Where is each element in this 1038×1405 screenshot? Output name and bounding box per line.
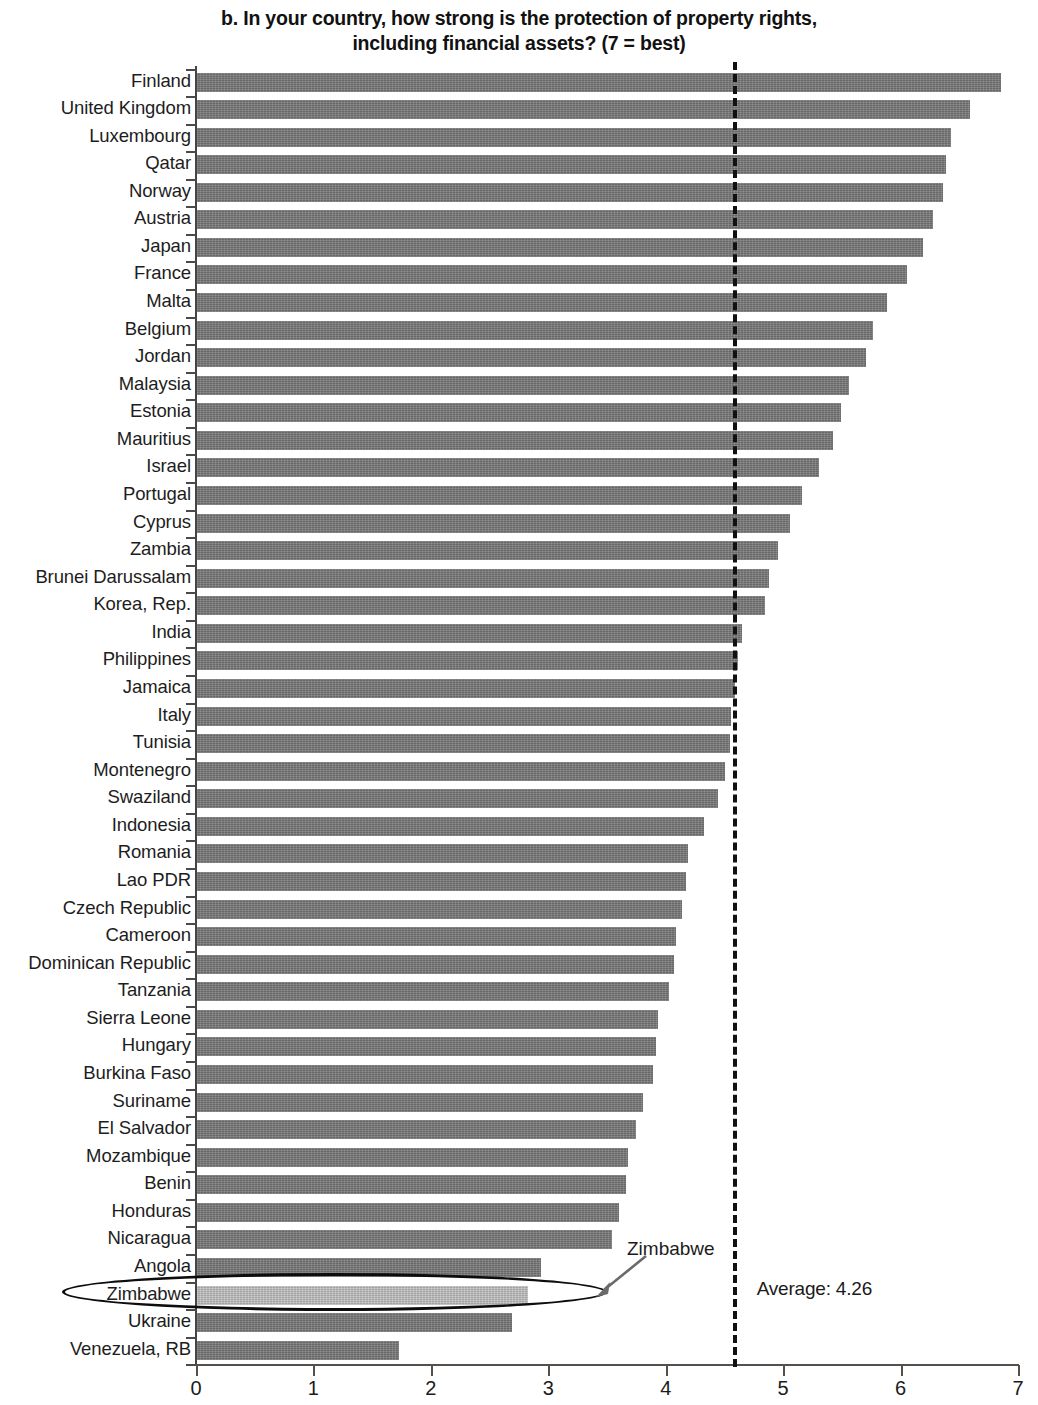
bar-row: Zambia	[0, 538, 1038, 566]
bar-row: Austria	[0, 207, 1038, 235]
bar	[197, 734, 730, 753]
bar	[197, 514, 790, 533]
bar-row: Tanzania	[0, 979, 1038, 1007]
bar-row: El Salvador	[0, 1117, 1038, 1145]
average-label: Average: 4.26	[757, 1278, 872, 1300]
bar-row: Estonia	[0, 400, 1038, 428]
category-label: Philippines	[0, 648, 191, 670]
bar	[197, 927, 676, 946]
bar	[197, 596, 765, 615]
bar	[197, 707, 731, 726]
bar	[197, 73, 1001, 92]
bar-row: Montenegro	[0, 759, 1038, 787]
category-label: Austria	[0, 207, 191, 229]
bar-row: Benin	[0, 1172, 1038, 1200]
bar	[197, 1313, 512, 1332]
bar-row: Israel	[0, 455, 1038, 483]
bar-row: Czech Republic	[0, 897, 1038, 925]
bar-row: Belgium	[0, 318, 1038, 346]
bar-row: Malaysia	[0, 373, 1038, 401]
category-label: Estonia	[0, 400, 191, 422]
average-reference-line	[733, 62, 737, 1367]
bar-row: Cameroon	[0, 924, 1038, 952]
bar	[197, 458, 819, 477]
x-axis-tick	[431, 1365, 433, 1376]
bar	[197, 844, 688, 863]
category-label: Indonesia	[0, 814, 191, 836]
bar-row: India	[0, 621, 1038, 649]
x-axis-tick	[901, 1365, 903, 1376]
bar-row: Suriname	[0, 1090, 1038, 1118]
bar-row: Philippines	[0, 648, 1038, 676]
category-label: Malaysia	[0, 373, 191, 395]
bar-row: Jamaica	[0, 676, 1038, 704]
x-axis-tick-label: 6	[881, 1377, 921, 1400]
category-label: Burkina Faso	[0, 1062, 191, 1084]
bar-row: Nicaragua	[0, 1227, 1038, 1255]
bar	[197, 1341, 399, 1360]
category-label: Nicaragua	[0, 1227, 191, 1249]
bar	[197, 486, 802, 505]
bar-row: Qatar	[0, 152, 1038, 180]
bar-row: Mauritius	[0, 428, 1038, 456]
category-label: India	[0, 621, 191, 643]
bar	[197, 128, 951, 147]
category-label: France	[0, 262, 191, 284]
bar	[197, 1148, 628, 1167]
bar-row: Zimbabwe	[0, 1283, 1038, 1311]
category-label: Hungary	[0, 1034, 191, 1056]
category-label: Korea, Rep.	[0, 593, 191, 615]
bar	[197, 817, 704, 836]
bar	[197, 541, 778, 560]
bar	[197, 1203, 619, 1222]
bar	[197, 210, 933, 229]
category-label: United Kingdom	[0, 97, 191, 119]
bar-row: Brunei Darussalam	[0, 566, 1038, 594]
category-label: Montenegro	[0, 759, 191, 781]
bar	[197, 100, 970, 119]
zimbabwe-callout-label: Zimbabwe	[627, 1238, 715, 1260]
category-label: Honduras	[0, 1200, 191, 1222]
bar-row: Cyprus	[0, 511, 1038, 539]
bar-row: Sierra Leone	[0, 1007, 1038, 1035]
x-axis-tick	[666, 1365, 668, 1376]
x-axis-tick	[313, 1365, 315, 1376]
bar-row: Angola	[0, 1255, 1038, 1283]
bar-row: Ukraine	[0, 1310, 1038, 1338]
chart-title-line-2: including financial assets? (7 = best)	[0, 31, 1038, 56]
category-label: Dominican Republic	[0, 952, 191, 974]
bar-row: Mozambique	[0, 1145, 1038, 1173]
category-label: El Salvador	[0, 1117, 191, 1139]
bar-row: Hungary	[0, 1034, 1038, 1062]
bar-row: Finland	[0, 70, 1038, 98]
bar-row: Portugal	[0, 483, 1038, 511]
bar	[197, 762, 725, 781]
category-label: Japan	[0, 235, 191, 257]
category-label: Mozambique	[0, 1145, 191, 1167]
bar	[197, 955, 674, 974]
bar	[197, 293, 887, 312]
category-label: Portugal	[0, 483, 191, 505]
bar	[197, 1065, 653, 1084]
category-label: Malta	[0, 290, 191, 312]
bar-row: Romania	[0, 841, 1038, 869]
bar	[197, 1037, 656, 1056]
bar	[197, 1175, 626, 1194]
category-label: Benin	[0, 1172, 191, 1194]
bar-row: Malta	[0, 290, 1038, 318]
bar	[197, 265, 907, 284]
bar	[197, 679, 735, 698]
bar	[197, 982, 669, 1001]
bar	[197, 1120, 636, 1139]
bar-row: Venezuela, RB	[0, 1338, 1038, 1366]
x-axis-tick-label: 1	[293, 1377, 333, 1400]
bar	[197, 403, 841, 422]
bar-row: Norway	[0, 180, 1038, 208]
bar-row: Lao PDR	[0, 869, 1038, 897]
bar	[197, 900, 682, 919]
bar-row: Italy	[0, 704, 1038, 732]
chart-title-line-1: b. In your country, how strong is the pr…	[0, 6, 1038, 31]
bar-row: Jordan	[0, 345, 1038, 373]
category-label: Suriname	[0, 1090, 191, 1112]
category-label: Romania	[0, 841, 191, 863]
